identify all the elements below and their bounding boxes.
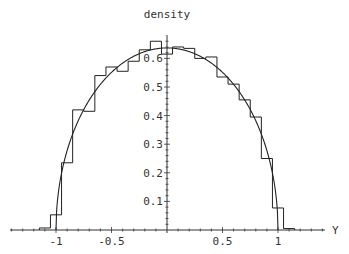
y-tick-label: 0.3 xyxy=(143,138,163,151)
chart-title: density xyxy=(144,8,191,21)
tick-labels: -1-0.50.510.10.20.30.40.50.6 xyxy=(49,52,281,248)
y-tick-label: 0.2 xyxy=(143,167,163,180)
y-tick-label: 0.5 xyxy=(143,81,163,94)
y-tick-label: 0.1 xyxy=(143,195,163,208)
x-tick-label: 1 xyxy=(275,235,282,248)
y-tick-label: 0.6 xyxy=(143,52,163,65)
x-axis-label: Y xyxy=(332,224,339,237)
y-tick-label: 0.4 xyxy=(143,110,163,123)
x-tick-label: 0.5 xyxy=(213,235,233,248)
x-tick-label: -1 xyxy=(49,235,62,248)
density-histogram-chart: density -1-0.50.510.10.20.30.40.50.6 Y xyxy=(0,0,349,254)
x-tick-label: -0.5 xyxy=(98,235,125,248)
